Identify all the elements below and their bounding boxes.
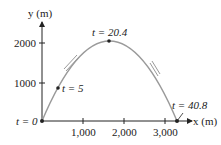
label-landing: t = 40.8 — [172, 99, 208, 111]
x-axis-label: x (m) — [193, 115, 217, 128]
point-t5 — [56, 86, 60, 90]
label-apex: t = 20.4 — [92, 26, 128, 38]
label-t0: t = 0 — [16, 115, 38, 127]
point-t0 — [40, 119, 44, 123]
y-axis-label: y (m) — [28, 7, 52, 20]
x-tick-label-3000: 3,000 — [153, 126, 178, 138]
point-apex — [107, 39, 111, 43]
y-tick-label-2000: 2000 — [14, 37, 37, 49]
x-tick-label-2000: 2,000 — [112, 126, 137, 138]
trajectory-diagram: y (m) x (m) 2000 1000 1,000 2,000 3,000 … — [0, 0, 221, 145]
trajectory-curve — [42, 41, 177, 121]
y-tick-label-1000: 1000 — [14, 77, 37, 89]
label-t5: t = 5 — [62, 82, 84, 94]
x-tick-label-1000: 1,000 — [71, 126, 96, 138]
landing-leader-line — [177, 113, 183, 121]
